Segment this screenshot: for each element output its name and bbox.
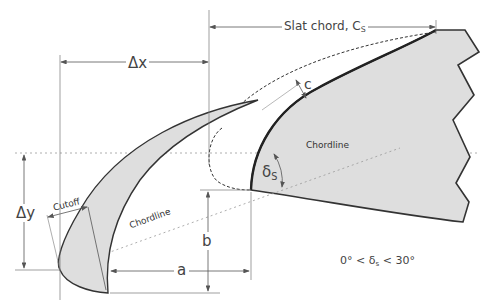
main-element-shape (251, 30, 479, 222)
main-chordline-label: Chordline (306, 140, 349, 150)
gap-label: c (304, 76, 312, 92)
retracted-slat-lower (209, 128, 251, 190)
delta-x-label: Δx (126, 54, 149, 72)
a-label: a (174, 261, 189, 279)
deflection-symbol: δ (262, 163, 271, 181)
cutoff-ext (47, 215, 60, 270)
slat-geometry-diagram (0, 0, 496, 306)
range-prefix: 0° < δ (340, 254, 375, 267)
deflection-subscript: S (271, 171, 277, 182)
slat-chord-subscript: S (361, 25, 366, 34)
range-suffix: < 30° (379, 254, 415, 267)
b-label: b (202, 232, 212, 250)
delta-y-label: Δy (16, 204, 35, 222)
slat-chord-label: Slat chord, CS (282, 19, 368, 34)
deflection-range-label: 0° < δs < 30° (340, 254, 415, 268)
slat-chord-text: Slat chord, C (284, 19, 361, 33)
deflection-label: δS (262, 163, 277, 182)
slat-shape (58, 100, 258, 293)
